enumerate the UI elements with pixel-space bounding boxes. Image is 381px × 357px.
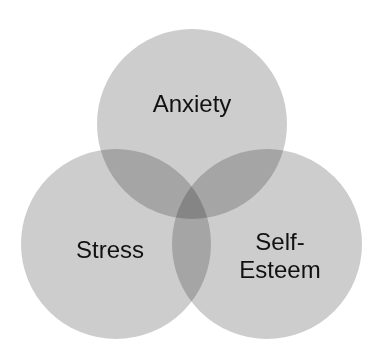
label-anxiety: Anxiety xyxy=(132,90,252,118)
venn-diagram xyxy=(0,0,381,357)
label-self-esteem: Self- Esteem xyxy=(220,228,340,284)
label-stress: Stress xyxy=(50,236,170,264)
